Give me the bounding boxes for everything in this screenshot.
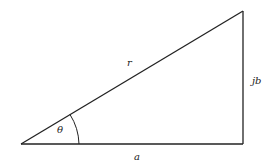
hypotenuse-r-line	[21, 11, 243, 144]
opposite-jb-label: jb	[250, 75, 262, 86]
triangle-diagram: θ r jb a	[0, 0, 273, 166]
hypotenuse-r-label: r	[127, 57, 133, 68]
angle-theta-label: θ	[57, 124, 63, 135]
angle-theta-arc	[70, 115, 79, 145]
adjacent-a-label: a	[134, 151, 140, 162]
